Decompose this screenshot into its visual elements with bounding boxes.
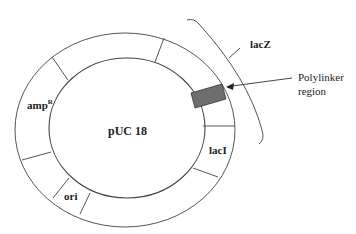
divider-top-left	[52, 57, 68, 80]
segment-label-lacI: lacI	[209, 144, 227, 156]
polylinker-region	[191, 84, 226, 108]
lacZ-bracket-tick	[229, 48, 240, 58]
arrowhead-icon	[226, 83, 234, 90]
divider-lacI-bottom	[193, 168, 218, 177]
callout-label-line1: Polylinker	[298, 71, 344, 83]
plasmid-name: pUC 18	[108, 124, 147, 138]
plasmid-diagram: pUC 18 ampR ori lacI lacZ Polylinker reg…	[0, 0, 356, 234]
divider-ori-right	[80, 193, 90, 214]
callout-label-line2: region	[298, 85, 327, 97]
segment-label-lacZ: lacZ	[250, 38, 271, 50]
segment-label-amp: ampR	[27, 98, 54, 111]
divider-top	[155, 38, 164, 62]
divider-left	[22, 152, 51, 160]
segment-label-ori: ori	[64, 190, 77, 202]
polylinker-arrow	[232, 78, 292, 86]
